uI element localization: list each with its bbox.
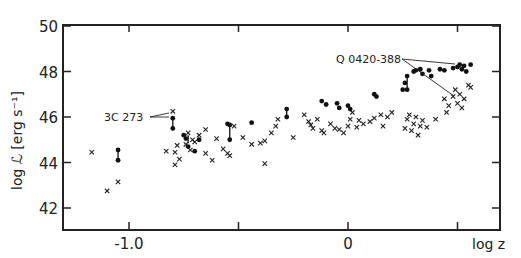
cross-marker bbox=[455, 101, 459, 105]
dot-marker bbox=[451, 66, 456, 71]
cross-marker bbox=[368, 119, 372, 123]
y-tick-label: 50 bbox=[39, 18, 58, 36]
cross-marker bbox=[164, 149, 168, 153]
dot-marker bbox=[170, 116, 175, 121]
cross-marker bbox=[203, 151, 207, 155]
cross-marker bbox=[249, 142, 253, 146]
cross-marker bbox=[390, 110, 394, 114]
y-tick-label: 44 bbox=[39, 155, 58, 173]
plot-frame bbox=[63, 25, 500, 230]
cross-marker bbox=[447, 103, 451, 107]
cross-marker bbox=[418, 124, 422, 128]
cross-marker bbox=[274, 124, 278, 128]
y-tick-label: 48 bbox=[39, 64, 58, 82]
x-tick-label: -1.0 bbox=[114, 235, 143, 253]
cross-marker bbox=[425, 125, 429, 129]
dot-marker bbox=[116, 158, 121, 163]
cross-marker bbox=[405, 117, 409, 121]
cross-marker bbox=[379, 113, 383, 117]
cross-marker bbox=[210, 158, 214, 162]
cross-marker bbox=[90, 150, 94, 154]
cross-marker bbox=[468, 85, 472, 89]
cross-marker bbox=[291, 135, 295, 139]
cross-marker bbox=[232, 124, 236, 128]
cross-marker bbox=[276, 117, 280, 121]
dot-marker bbox=[405, 87, 410, 92]
dot-marker bbox=[427, 68, 432, 73]
dot-marker bbox=[464, 69, 469, 74]
cross-marker bbox=[263, 161, 267, 165]
dot-marker bbox=[429, 74, 434, 79]
dot-marker bbox=[403, 80, 408, 85]
dot-marker bbox=[468, 62, 473, 67]
dot-marker bbox=[227, 137, 232, 142]
cross-marker bbox=[322, 131, 326, 135]
cross-marker bbox=[173, 163, 177, 167]
dot-marker bbox=[197, 137, 202, 142]
cross-marker bbox=[381, 124, 385, 128]
cross-marker bbox=[263, 139, 267, 143]
dot-marker bbox=[457, 62, 462, 67]
cross-marker bbox=[414, 115, 418, 119]
cross-marker bbox=[412, 122, 416, 126]
cross-marker bbox=[258, 141, 262, 145]
cross-marker bbox=[403, 126, 407, 130]
annotation-3c273: 3C 273 bbox=[104, 111, 143, 124]
cross-marker bbox=[337, 127, 341, 131]
cross-marker bbox=[328, 122, 332, 126]
cross-marker bbox=[444, 110, 448, 114]
dot-marker bbox=[184, 136, 189, 141]
data-points bbox=[90, 62, 473, 193]
dot-marker bbox=[249, 120, 254, 125]
cross-marker bbox=[433, 117, 437, 121]
cross-marker bbox=[420, 118, 424, 122]
cross-marker bbox=[173, 150, 177, 154]
cross-marker bbox=[186, 131, 190, 135]
x-tick-label: 0 bbox=[343, 235, 353, 253]
dot-marker bbox=[335, 101, 340, 106]
dot-marker bbox=[284, 115, 289, 120]
cross-marker bbox=[341, 131, 345, 135]
cross-marker bbox=[333, 126, 337, 130]
dot-marker bbox=[442, 68, 447, 73]
dot-marker bbox=[319, 99, 324, 104]
cross-marker bbox=[407, 113, 411, 117]
dot-marker bbox=[462, 63, 467, 68]
y-tick-label: 46 bbox=[39, 109, 58, 127]
dot-marker bbox=[227, 123, 232, 128]
cross-marker bbox=[372, 116, 376, 120]
cross-marker bbox=[460, 106, 464, 110]
cross-marker bbox=[416, 133, 420, 137]
connector-lines bbox=[118, 76, 407, 160]
dot-marker bbox=[170, 126, 175, 131]
cross-marker bbox=[346, 124, 350, 128]
dot-marker bbox=[192, 149, 197, 154]
cross-marker bbox=[203, 127, 207, 131]
dot-marker bbox=[374, 94, 379, 99]
dot-marker bbox=[116, 148, 121, 153]
cross-marker bbox=[315, 117, 319, 121]
cross-marker bbox=[357, 118, 361, 122]
dot-marker bbox=[438, 67, 443, 72]
cross-marker bbox=[442, 97, 446, 101]
axis-ticks bbox=[63, 25, 500, 230]
cross-marker bbox=[385, 115, 389, 119]
x-axis-label: log z bbox=[472, 236, 505, 252]
y-tick-label: 42 bbox=[39, 200, 58, 218]
cross-marker bbox=[214, 136, 218, 140]
dot-marker bbox=[337, 106, 342, 111]
annotation-q0420-388: Q 0420-388 bbox=[336, 53, 401, 66]
dot-marker bbox=[400, 87, 405, 92]
cross-marker bbox=[105, 189, 109, 193]
y-axis-label: log ℒ [erg s⁻¹] bbox=[9, 91, 25, 190]
cross-marker bbox=[197, 133, 201, 137]
dot-marker bbox=[284, 107, 289, 112]
cross-marker bbox=[193, 140, 197, 144]
cross-marker bbox=[361, 122, 365, 126]
cross-marker bbox=[171, 109, 175, 113]
tick-labels: -1.004244464850 bbox=[39, 18, 353, 253]
cross-marker bbox=[409, 128, 413, 132]
cross-marker bbox=[116, 180, 120, 184]
cross-marker bbox=[355, 125, 359, 129]
dot-marker bbox=[186, 144, 191, 149]
